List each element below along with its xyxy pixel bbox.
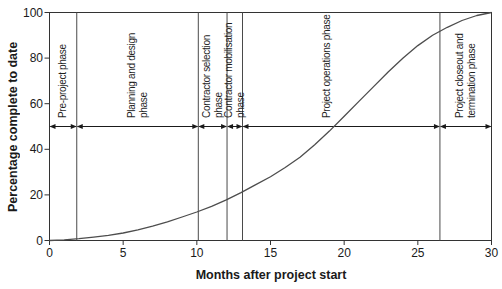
phase-label: Contractor mobilisation phase <box>223 2 247 118</box>
x-tick-label: 20 <box>337 246 351 260</box>
x-tick-label: 15 <box>264 246 278 260</box>
x-tick-label: 0 <box>46 246 53 260</box>
plot-area: 051015202530020406080100 <box>0 0 502 289</box>
project-lifecycle-s-curve-figure: 051015202530020406080100 Percentage comp… <box>0 0 502 289</box>
arrowhead-left-icon <box>50 124 56 129</box>
phase-label: Pre-project phase <box>57 2 69 118</box>
x-tick-label: 25 <box>411 246 425 260</box>
y-tick-label: 20 <box>30 188 44 202</box>
x-axis-title: Months after project start <box>50 268 492 282</box>
arrowhead-right-icon <box>434 124 440 129</box>
arrowhead-left-icon <box>77 124 83 129</box>
arrowhead-right-icon <box>237 124 243 129</box>
x-tick-label: 10 <box>190 246 204 260</box>
y-tick-label: 60 <box>30 97 44 111</box>
y-tick-label: 0 <box>36 234 43 248</box>
y-tick-label: 100 <box>23 6 43 20</box>
phase-label: Project operations phase <box>321 2 333 118</box>
arrowhead-left-icon <box>198 124 204 129</box>
y-axis-title: Percentage complete to date <box>6 13 20 241</box>
phase-label: Contractor selection phase <box>201 2 225 118</box>
y-tick-label: 40 <box>30 142 44 156</box>
phase-label: Planning and design phase <box>126 2 150 118</box>
arrowhead-right-icon <box>486 124 492 129</box>
y-tick-label: 80 <box>30 51 44 65</box>
arrowhead-left-icon <box>243 124 249 129</box>
arrowhead-right-icon <box>221 124 227 129</box>
arrowhead-right-icon <box>192 124 198 129</box>
x-tick-label: 5 <box>120 246 127 260</box>
arrowhead-left-icon <box>227 124 233 129</box>
arrowhead-right-icon <box>71 124 77 129</box>
arrowhead-left-icon <box>440 124 446 129</box>
phase-label: Project closeout and termination phase <box>454 2 478 118</box>
x-tick-label: 30 <box>485 246 499 260</box>
